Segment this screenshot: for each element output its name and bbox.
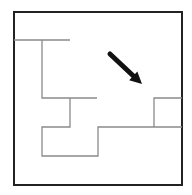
maze-diagram (0, 0, 192, 195)
maze-wall (42, 40, 97, 98)
maze-wall (42, 98, 182, 156)
maze-walls (14, 40, 182, 156)
maze-wall (154, 98, 182, 127)
arrow-icon (110, 54, 142, 84)
